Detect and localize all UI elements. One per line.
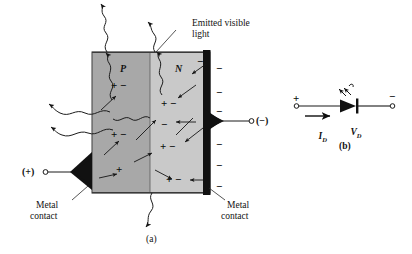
carrier-n-3: + −: [160, 140, 175, 152]
n-region-label: N: [175, 63, 182, 74]
metal-contact-right-label-line1: Metal: [227, 200, 249, 211]
symbol-cathode-terminal[interactable]: [390, 104, 395, 109]
emission-arrow-2: [344, 88, 351, 95]
contact-minus-5: −: [216, 159, 222, 171]
emitted-light-label-line1: Emitted visible: [192, 18, 250, 29]
metal-contact-right-label-line2: contact: [221, 211, 248, 222]
contact-minus-6: −: [216, 180, 222, 192]
emitted-light-leader: [156, 30, 176, 52]
carrier-p-1: + −: [111, 79, 126, 91]
symbol-cathode-sign: −: [389, 90, 395, 102]
contact-minus-2: −: [216, 86, 222, 98]
led-symbol-group: [294, 84, 395, 116]
metal-contact-left-label-line1: Metal: [36, 200, 58, 211]
carrier-n-0: −: [197, 55, 203, 67]
anode-terminal-node[interactable]: [43, 170, 48, 175]
carrier-n-4: + −: [166, 173, 181, 185]
p-region-label: P: [120, 63, 126, 74]
anode-terminal-label: (+): [22, 166, 34, 177]
carrier-n-2: −: [161, 118, 167, 130]
contact-minus-1: −: [216, 62, 222, 74]
symbol-anode-terminal[interactable]: [294, 104, 299, 109]
caption-b: (b): [339, 141, 351, 152]
current-label-subscript: D: [322, 136, 327, 143]
caption-a: (a): [146, 234, 157, 245]
emission-arrow-1: [339, 89, 346, 96]
cathode-terminal-label: (−): [256, 115, 268, 126]
carrier-n-1: + −: [161, 97, 176, 109]
metal-contact-left-label-line2: contact: [30, 211, 57, 222]
photon-wave-bottom: [146, 193, 153, 227]
current-label: ID: [309, 120, 327, 156]
photon-wave-top-left: [101, 4, 108, 52]
voltage-label-subscript: D: [357, 132, 362, 139]
photon-wave-top-middle: [148, 22, 156, 52]
emission-squiggle: [349, 84, 353, 87]
symbol-anode-sign: +: [293, 92, 299, 104]
cathode-terminal-node[interactable]: [249, 119, 254, 124]
symbol-emission-arrows: [339, 84, 353, 96]
led-figure: Emitted visible light P N Metal contact …: [0, 0, 412, 254]
metal-contact-left-leader: [72, 186, 88, 200]
carrier-p-3: +: [116, 163, 122, 175]
carrier-p-2: + −: [111, 128, 126, 140]
emitted-light-label-line2: light: [192, 29, 209, 40]
contact-minus-4: −: [216, 138, 222, 150]
diode-triangle: [340, 100, 356, 113]
contact-minus-3: −: [216, 105, 222, 117]
